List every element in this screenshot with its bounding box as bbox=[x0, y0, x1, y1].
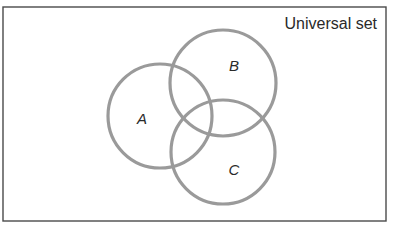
set-b-label: B bbox=[229, 57, 239, 74]
universal-set-label: Universal set bbox=[285, 15, 378, 32]
venn-diagram: Universal set A B C bbox=[0, 0, 399, 229]
set-c-label: C bbox=[229, 161, 240, 178]
set-a-label: A bbox=[136, 110, 147, 127]
